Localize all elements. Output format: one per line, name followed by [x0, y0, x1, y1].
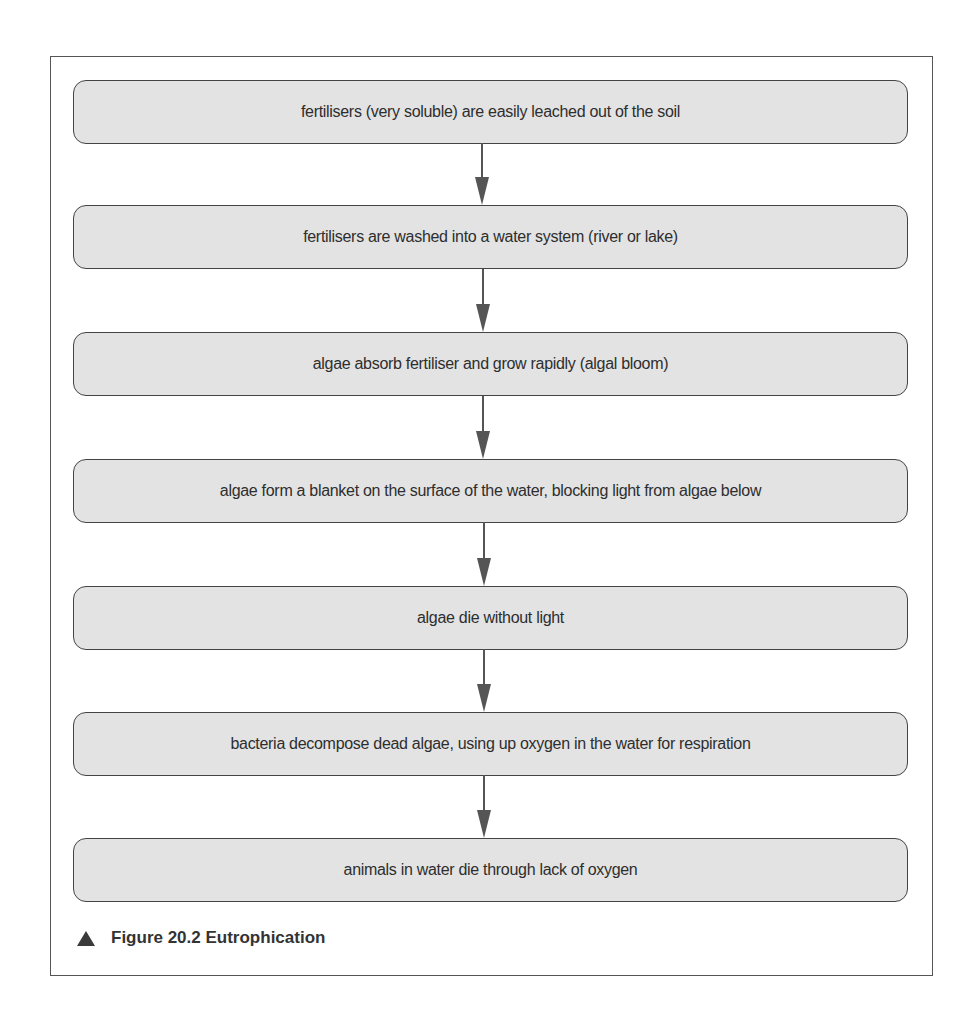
flow-step-label: animals in water die through lack of oxy…: [344, 861, 638, 879]
flow-step-label: algae die without light: [417, 609, 564, 627]
arrow-down-icon: [473, 269, 493, 332]
flow-step-label: fertilisers are washed into a water syst…: [303, 228, 678, 246]
flow-step-6: bacteria decompose dead algae, using up …: [73, 712, 908, 776]
arrow-down-icon: [474, 522, 494, 586]
arrow-down-icon: [474, 775, 494, 838]
flow-step-label: bacteria decompose dead algae, using up …: [230, 735, 750, 753]
arrow-down-icon: [472, 143, 492, 205]
arrow-down-icon: [474, 649, 494, 712]
flow-step-1: fertilisers (very soluble) are easily le…: [73, 80, 908, 144]
figure-caption-text: Figure 20.2 Eutrophication: [111, 928, 325, 948]
triangle-up-icon: [77, 931, 95, 946]
flow-step-label: algae absorb fertiliser and grow rapidly…: [313, 355, 669, 373]
flow-step-label: fertilisers (very soluble) are easily le…: [301, 103, 680, 121]
flow-step-2: fertilisers are washed into a water syst…: [73, 205, 908, 269]
figure-caption: Figure 20.2 Eutrophication: [77, 928, 325, 948]
flow-step-label: algae form a blanket on the surface of t…: [220, 482, 761, 500]
flow-step-4: algae form a blanket on the surface of t…: [73, 459, 908, 523]
flow-step-3: algae absorb fertiliser and grow rapidly…: [73, 332, 908, 396]
arrow-down-icon: [473, 396, 493, 459]
flow-step-7: animals in water die through lack of oxy…: [73, 838, 908, 902]
flow-step-5: algae die without light: [73, 586, 908, 650]
